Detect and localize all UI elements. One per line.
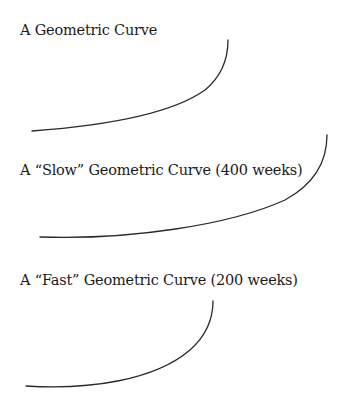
slow-geometric-curve	[40, 135, 327, 237]
fast-geometric-curve	[26, 301, 213, 387]
curves-canvas	[0, 0, 337, 402]
geometric-curve	[32, 40, 228, 131]
